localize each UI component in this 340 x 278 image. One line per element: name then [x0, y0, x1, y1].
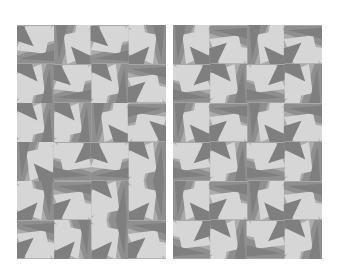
- tile: [54, 25, 91, 64]
- tile: [128, 221, 166, 258]
- tile: [92, 64, 129, 103]
- tile: [210, 220, 247, 259]
- tile: [173, 221, 211, 258]
- tile: [129, 181, 166, 220]
- tile: [92, 220, 129, 259]
- tile: [173, 143, 211, 180]
- tile: [92, 103, 129, 142]
- tile: [53, 65, 92, 102]
- tile: [53, 143, 92, 180]
- tile: [17, 103, 54, 142]
- tile: [129, 142, 166, 181]
- tile: [284, 26, 322, 63]
- tile: [285, 220, 322, 259]
- tile: [210, 142, 247, 181]
- tile: [248, 25, 285, 64]
- tile: [247, 65, 286, 102]
- tile: [248, 103, 285, 142]
- tile: [284, 182, 322, 219]
- right-tile-pattern: [173, 25, 322, 259]
- tile: [209, 104, 248, 141]
- tile: [91, 26, 130, 63]
- tile: [91, 143, 130, 180]
- tile: [248, 181, 285, 220]
- tile: [173, 25, 210, 64]
- tile: [129, 25, 166, 64]
- left-pattern-panel: [17, 25, 166, 259]
- tile: [247, 221, 286, 258]
- tile: [173, 103, 210, 142]
- tile: [285, 64, 322, 103]
- tile: [173, 65, 211, 102]
- tile: [285, 142, 322, 181]
- tile: [128, 104, 166, 141]
- left-tile-pattern: [17, 25, 166, 259]
- tile: [128, 65, 166, 102]
- tile: [54, 103, 91, 142]
- tile: [17, 26, 55, 63]
- tile: [209, 26, 248, 63]
- tile: [17, 142, 54, 181]
- tile: [17, 64, 54, 103]
- tile: [209, 182, 248, 219]
- right-pattern-panel: [173, 25, 322, 259]
- tile: [92, 181, 129, 220]
- tile: [17, 181, 54, 220]
- tile: [210, 64, 247, 103]
- tile: [173, 181, 210, 220]
- tile: [284, 104, 322, 141]
- tile: [53, 182, 92, 219]
- tile: [54, 220, 91, 259]
- tile: [247, 143, 286, 180]
- tile: [17, 221, 55, 258]
